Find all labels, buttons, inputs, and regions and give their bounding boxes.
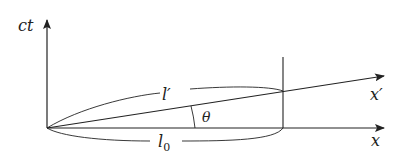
angle-label: θ [202, 109, 211, 125]
rest-length-brace [47, 128, 283, 141]
spacetime-diagram: ct x′ x l′ θ l0 [0, 0, 401, 165]
time-axis-label: ct [18, 16, 34, 35]
x-prime-axis [47, 76, 384, 128]
rest-length-subscript: 0 [163, 141, 170, 154]
moving-length-label: l′ [162, 85, 171, 104]
rest-length-label: l0 [158, 132, 170, 154]
x-prime-axis-label: x′ [370, 85, 383, 104]
x-axis-label: x [371, 131, 380, 150]
angle-arc [191, 106, 195, 128]
